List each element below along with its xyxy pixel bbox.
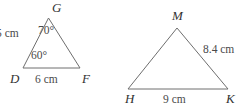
side-label-6cm: 6 cm <box>35 74 58 86</box>
geometry-figure: G 70° 60° 5 cm D 6 cm F M 8.4 cm H 9 cm … <box>0 0 250 112</box>
angle-label-70: 70° <box>38 25 54 37</box>
vertex-label-D: D <box>10 72 19 85</box>
vertex-label-F: F <box>82 72 90 85</box>
vertex-label-G: G <box>52 1 61 14</box>
vertex-label-H: H <box>125 92 134 105</box>
side-label-8-4cm: 8.4 cm <box>203 44 234 56</box>
angle-label-60: 60° <box>31 50 47 62</box>
vertex-label-M: M <box>172 9 183 22</box>
side-label-5cm: 5 cm <box>0 28 19 40</box>
triangle-HMK-outline <box>128 28 228 89</box>
side-label-9cm: 9 cm <box>163 94 186 106</box>
vertex-label-K: K <box>226 92 235 105</box>
